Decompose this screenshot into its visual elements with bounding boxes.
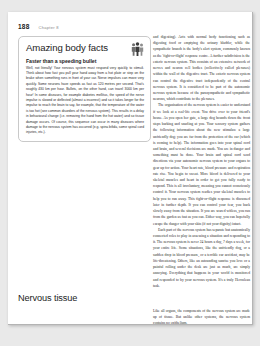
body-paragraph: The organisation of the nervous system i… [153,102,250,226]
running-head: 188 Chapter 8 [18,23,59,30]
people-figures-icon [131,42,144,56]
screenshot-viewport: 188 Chapter 8 Amazing body facts [0,0,260,346]
textbook-page: 188 Chapter 8 Amazing body facts [8,12,253,325]
feature-box-header: Amazing body facts [26,43,144,56]
feature-box-title: Amazing body facts [26,43,108,53]
chapter-label: Chapter 8 [38,25,58,30]
section-heading-nervous-tissue: Nervous tissue [18,293,143,303]
body-paragraph: Each part of the nervous system has sepa… [153,227,250,289]
section-body-wrapper: Like all organs, the components of the n… [153,308,250,325]
feature-box-subtitle: Faster than a speeding bullet [26,58,144,64]
page-folio-number: 188 [18,23,29,30]
body-column-right: and digesting). Acts with normal body fu… [153,34,250,289]
feature-box-paragraph: Well, not literally! Your nervous system… [26,66,144,136]
section-paragraph: Like all organs, the components of the n… [153,308,250,325]
body-paragraph: and digesting). Acts with normal body fu… [153,34,250,102]
amazing-body-facts-box: Amazing body facts [18,36,151,142]
